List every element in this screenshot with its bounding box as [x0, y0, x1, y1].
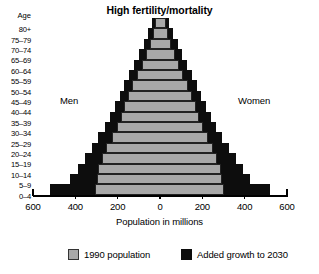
- pyramid-row: [33, 184, 287, 194]
- bar-segment-men-1990: [153, 28, 160, 38]
- pyramid-row: [33, 60, 287, 70]
- x-axis-tick: [117, 195, 118, 199]
- age-group-label: 10–14: [11, 172, 31, 180]
- bar-segment-women-1990: [160, 101, 196, 111]
- age-group-label: 30–34: [11, 130, 31, 138]
- legend-label-added-growth: Added growth to 2030: [197, 249, 288, 260]
- age-group-label: 0–4: [19, 193, 31, 201]
- bar-segment-men-1990: [112, 132, 160, 142]
- age-group-label: 40–44: [11, 109, 31, 117]
- x-axis-tick-label: 600: [13, 201, 53, 212]
- bar-segment-women-1990: [160, 122, 203, 132]
- bar-segment-men-1990: [132, 80, 160, 90]
- x-axis-tick-label: 200: [182, 201, 222, 212]
- bar-segment-women-1990: [160, 164, 221, 174]
- bar-segment-men-1990: [121, 112, 160, 122]
- bar-segment-women-1990: [160, 70, 183, 80]
- bar-segment-men-1990: [124, 101, 160, 111]
- x-axis-tick-label: 0: [140, 201, 180, 212]
- bar-segment-men-1990: [102, 153, 160, 163]
- gray-square-swatch-icon: [68, 249, 79, 260]
- bar-segment-men-1990: [137, 70, 160, 80]
- bar-segment-men-1990: [146, 49, 160, 59]
- legend-label-1990-population: 1990 population: [84, 249, 150, 260]
- legend-item-1990-population: 1990 population: [68, 249, 150, 260]
- legend-item-added-growth: Added growth to 2030: [181, 249, 288, 260]
- x-axis-tick-label: 200: [98, 201, 138, 212]
- bar-segment-men-1990: [95, 184, 160, 194]
- x-axis-tick: [286, 189, 287, 196]
- bar-segment-men-1990: [97, 174, 161, 184]
- bar-segment-women-1990: [160, 174, 222, 184]
- chart-title: High fertility/mortality: [0, 4, 319, 16]
- bar-segment-women-1990: [160, 132, 208, 142]
- x-axis-tick: [202, 195, 203, 199]
- women-side-label: Women: [238, 95, 270, 106]
- pyramid-row: [33, 143, 287, 153]
- x-axis-tick: [32, 189, 33, 196]
- x-axis-title: Population in millions: [0, 216, 319, 227]
- bar-segment-women-1990: [160, 112, 199, 122]
- age-group-label: 70–74: [11, 47, 31, 55]
- age-group-label: 35–39: [11, 120, 31, 128]
- population-pyramid-chart: High fertility/mortality Age 80+75–7970–…: [0, 0, 319, 274]
- chart-legend: 1990 population Added growth to 2030: [0, 249, 319, 267]
- plot-area: [33, 18, 287, 195]
- x-axis-tick: [75, 195, 76, 199]
- black-square-swatch-icon: [181, 249, 192, 260]
- bar-segment-women-1990: [160, 28, 168, 38]
- bar-segment-women-1990: [160, 49, 175, 59]
- pyramid-row: [33, 28, 287, 38]
- pyramid-row: [33, 49, 287, 59]
- pyramid-row: [33, 164, 287, 174]
- pyramid-row: [33, 122, 287, 132]
- bar-segment-women-1990: [160, 80, 188, 90]
- x-axis-tick: [244, 195, 245, 199]
- bar-segment-women-1990: [160, 18, 166, 28]
- bar-segment-men-1990: [106, 143, 160, 153]
- bar-segment-women-1990: [160, 143, 213, 153]
- age-group-label: 80+: [19, 26, 31, 34]
- pyramid-row: [33, 132, 287, 142]
- age-group-label: 25–29: [11, 141, 31, 149]
- pyramid-row: [33, 18, 287, 28]
- age-axis-header: Age: [17, 12, 31, 20]
- bar-segment-men-1990: [117, 122, 160, 132]
- bar-segment-men-1990: [150, 39, 160, 49]
- age-group-label: 75–79: [11, 37, 31, 45]
- age-group-label: 50–54: [11, 89, 31, 97]
- bar-segment-women-1990: [160, 184, 224, 194]
- bar-segment-women-1990: [160, 153, 217, 163]
- bar-segment-men-1990: [142, 60, 160, 70]
- pyramid-row: [33, 70, 287, 80]
- x-axis-tick-label: 400: [55, 201, 95, 212]
- x-axis-tick: [159, 195, 160, 199]
- pyramid-row: [33, 112, 287, 122]
- age-group-label: 60–64: [11, 68, 31, 76]
- age-group-label: 15–19: [11, 161, 31, 169]
- age-group-label: 55–59: [11, 78, 31, 86]
- age-group-label: 45–49: [11, 99, 31, 107]
- x-axis-tick-label: 600: [267, 201, 307, 212]
- x-axis-tick-label: 400: [225, 201, 265, 212]
- bar-segment-men-1990: [128, 91, 160, 101]
- pyramid-row: [33, 80, 287, 90]
- men-side-label: Men: [60, 95, 78, 106]
- bar-segment-women-1990: [160, 91, 192, 101]
- bar-segment-men-1990: [98, 164, 160, 174]
- pyramid-row: [33, 153, 287, 163]
- bar-segment-women-1990: [160, 60, 179, 70]
- age-group-label: 5–9: [19, 182, 31, 190]
- bar-segment-women-1990: [160, 39, 171, 49]
- age-group-label: 65–69: [11, 57, 31, 65]
- age-group-label: 20–24: [11, 151, 31, 159]
- pyramid-row: [33, 39, 287, 49]
- pyramid-row: [33, 174, 287, 184]
